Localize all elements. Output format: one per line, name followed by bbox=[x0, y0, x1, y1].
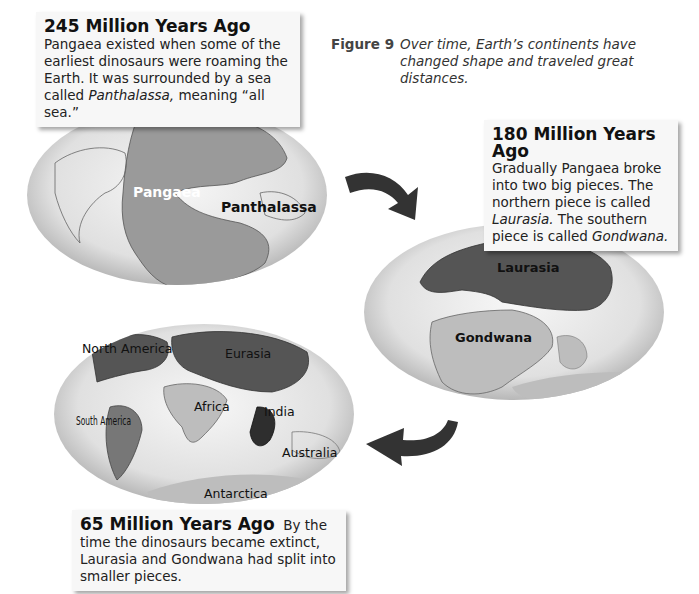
map-label-laurasia: Laurasia bbox=[497, 260, 559, 275]
stage-text-italic: Gondwana. bbox=[592, 228, 668, 244]
info-box-245-mya: 245 Million Years Ago Pangaea existed wh… bbox=[36, 12, 300, 127]
map-label-gondwana: Gondwana bbox=[455, 330, 532, 345]
figure-caption: Figure 9Over time, Earth’s continents ha… bbox=[331, 36, 699, 87]
map-label-north-america: North America bbox=[82, 341, 173, 356]
map-label-eurasia: Eurasia bbox=[225, 346, 271, 361]
stage-heading: 65 Million Years Ago bbox=[80, 514, 275, 534]
map-label-australia: Australia bbox=[282, 445, 337, 460]
map-label-africa: Africa bbox=[194, 399, 230, 414]
figure-caption-text: Over time, Earth’s continents have chang… bbox=[400, 36, 690, 87]
info-box-180-mya: 180 Million Years Ago Gradually Pangaea … bbox=[484, 120, 678, 251]
stage-text-italic: Panthalassa, bbox=[88, 87, 174, 103]
stage-heading: 245 Million Years Ago bbox=[44, 16, 251, 36]
figure-number: Figure 9 bbox=[331, 36, 394, 52]
globe-245-mya: Pangaea Panthalassa bbox=[25, 103, 330, 288]
map-label-north-america-text: North America bbox=[82, 341, 173, 356]
stage-text-italic: Laurasia. bbox=[492, 211, 554, 227]
info-box-65-mya: 65 Million Years Ago By the time the din… bbox=[72, 510, 346, 591]
map-label-panthalassa: Panthalassa bbox=[221, 199, 317, 215]
arrow-forward-icon bbox=[340, 165, 430, 225]
map-label-pangaea: Pangaea bbox=[133, 184, 201, 200]
arrow-back-icon bbox=[366, 418, 461, 468]
map-label-south-america: South America bbox=[76, 413, 131, 428]
map-label-india: India bbox=[264, 404, 295, 419]
stage-text: Gradually Pangaea broke into two big pie… bbox=[492, 160, 661, 210]
map-label-antarctica: Antarctica bbox=[204, 486, 268, 501]
globe-65-mya: North America Eurasia South America Afri… bbox=[52, 322, 357, 507]
stage-heading: 180 Million Years Ago bbox=[492, 126, 670, 160]
